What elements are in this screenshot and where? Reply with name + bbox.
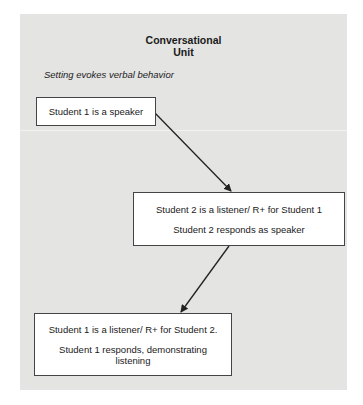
node-text: listening [35,355,231,366]
node-student2-listener: Student 2 is a listener/ R+ for Student … [133,192,345,246]
node-text: Student 1 responds, demonstrating [35,344,231,355]
arrow-box2-to-box3 [181,246,229,312]
node-text: Student 1 is a speaker [37,106,155,117]
node-text: Student 1 is a listener/ R+ for Student … [35,324,231,335]
node-student1-speaker: Student 1 is a speaker [36,97,156,126]
node-student1-listener: Student 1 is a listener/ R+ for Student … [34,313,232,376]
node-text: Student 2 responds as speaker [134,224,344,235]
node-text: Student 2 is a listener/ R+ for Student … [134,204,344,215]
arrow-box1-to-box2 [155,113,231,191]
